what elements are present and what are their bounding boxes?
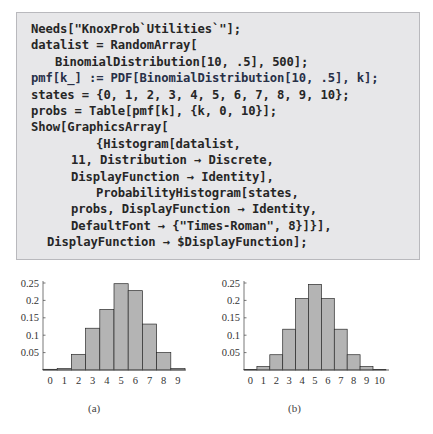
code-line: probs = Table[pmf[k], {k, 0, 10}]; (31, 103, 277, 119)
y-tick-label: 0.1 (227, 330, 240, 341)
code-line: probs, DisplayFunction → Identity, (71, 201, 317, 217)
code-line: {Histogram[datalist, (96, 136, 241, 152)
histogram-bar (257, 367, 270, 370)
code-line: DefaultFont → {"Times-Roman", 8}]}], (71, 218, 332, 234)
histogram-bar (334, 329, 347, 370)
x-tick-label: 0 (248, 375, 253, 386)
x-tick-label: 2 (274, 375, 279, 386)
caption-b: (b) (288, 402, 301, 414)
y-tick-label: 0.15 (222, 312, 240, 323)
probability-histogram-b: 0.050.10.150.20.25012345678910 (0, 276, 432, 400)
code-line: ProbabilityHistogram[states, (96, 185, 299, 201)
code-line: states = {0, 1, 2, 3, 4, 5, 6, 7, 8, 9, … (31, 87, 349, 103)
chart-svg: 0.050.10.150.20.25012345678910 (0, 276, 432, 396)
x-tick-label: 6 (325, 375, 330, 386)
x-tick-label: 5 (312, 375, 317, 386)
code-line: BinomialDistribution[10, .5], 500]; (55, 54, 308, 70)
x-tick-label: 10 (374, 375, 385, 386)
histogram-bar (360, 367, 373, 370)
x-tick-label: 7 (338, 375, 343, 386)
histogram-bar (270, 355, 283, 370)
x-tick-label: 4 (299, 375, 305, 386)
histogram-bar (309, 284, 322, 370)
code-line: DisplayFunction → $DisplayFunction]; (47, 234, 308, 250)
x-tick-label: 3 (287, 375, 292, 386)
histogram-bar (296, 299, 309, 370)
code-line: Needs["KnoxProb`Utilities`"]; (31, 21, 241, 37)
histogram-bar (321, 299, 334, 370)
x-tick-label: 1 (261, 375, 266, 386)
caption-a: (a) (88, 402, 100, 414)
code-line: pmf[k_] := PDF[BinomialDistribution[10, … (31, 70, 378, 86)
code-line: datalist = RandomArray[ (31, 37, 197, 53)
y-tick-label: 0.05 (222, 347, 240, 358)
histogram-bar (347, 355, 360, 370)
y-tick-label: 0.25 (222, 278, 240, 289)
histogram-bar (283, 329, 296, 370)
x-tick-label: 9 (364, 375, 369, 386)
code-line: DisplayFunction → Identity], (71, 169, 274, 185)
x-tick-label: 8 (351, 375, 356, 386)
code-line: 11, Distribution → Discrete, (71, 152, 274, 168)
code-line: Show[GraphicsArray[ (31, 119, 169, 135)
y-tick-label: 0.2 (227, 295, 240, 306)
